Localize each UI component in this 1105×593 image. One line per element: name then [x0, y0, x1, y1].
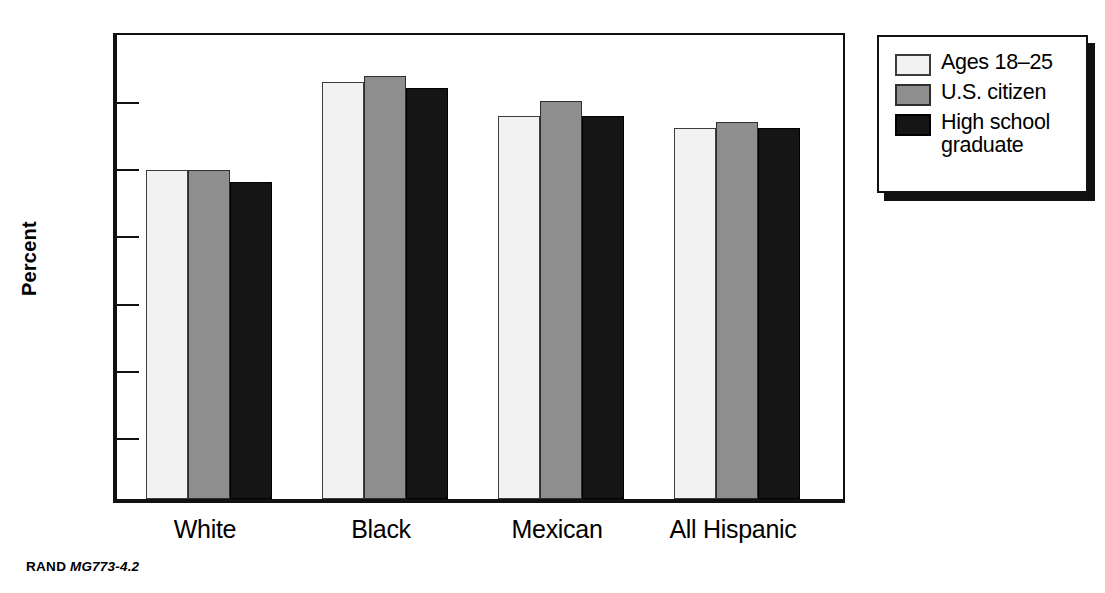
- plot-area: [113, 33, 845, 503]
- legend: Ages 18–25U.S. citizenHigh school gradua…: [877, 35, 1088, 193]
- bar-black-series-2: [406, 88, 448, 499]
- bar-mexican-series-2: [582, 116, 624, 499]
- bars-layer: [117, 35, 843, 499]
- bar-mexican-series-0: [498, 116, 540, 499]
- caption-source: RAND: [26, 559, 66, 574]
- legend-item-2: High school graduate: [895, 111, 1086, 157]
- legend-swatch-icon-2: [895, 114, 931, 136]
- legend-swatch-icon-0: [895, 54, 931, 76]
- y-axis-label: Percent: [18, 221, 41, 296]
- bar-white-series-0: [146, 170, 188, 499]
- bar-all-hispanic-series-0: [674, 128, 716, 499]
- bar-white-series-2: [230, 182, 272, 499]
- bar-all-hispanic-series-1: [716, 122, 758, 499]
- bar-black-series-1: [364, 76, 406, 499]
- x-axis-label-all-hispanic: All Hispanic: [669, 515, 796, 544]
- legend-label-1: U.S. citizen: [941, 81, 1046, 104]
- x-axis-label-mexican: Mexican: [512, 515, 603, 544]
- figure-caption: RAND MG773-4.2: [26, 559, 139, 574]
- legend-swatch-icon-1: [895, 84, 931, 106]
- bar-all-hispanic-series-2: [758, 128, 800, 499]
- x-axis-label-white: White: [174, 515, 236, 544]
- bar-white-series-1: [188, 170, 230, 499]
- legend-label-0: Ages 18–25: [941, 51, 1053, 74]
- bar-black-series-0: [322, 82, 364, 499]
- legend-item-1: U.S. citizen: [895, 81, 1086, 106]
- legend-label-2: High school graduate: [941, 111, 1050, 157]
- x-axis-label-black: Black: [351, 515, 411, 544]
- legend-item-0: Ages 18–25: [895, 51, 1086, 76]
- bar-chart-figure: Percent 010203040506070 WhiteBlackMexica…: [0, 0, 1105, 593]
- bar-mexican-series-1: [540, 101, 582, 499]
- caption-figure-code: MG773-4.2: [70, 559, 139, 574]
